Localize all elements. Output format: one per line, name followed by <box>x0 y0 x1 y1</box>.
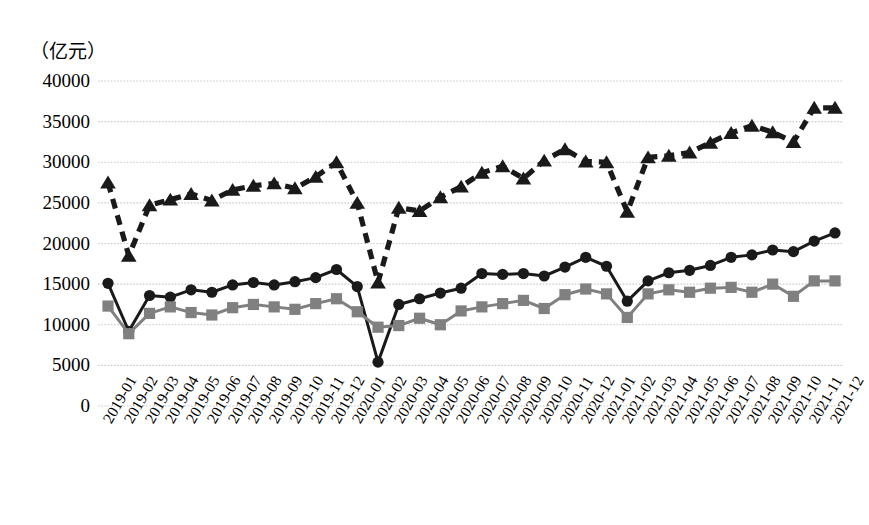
data-point-square <box>227 302 238 313</box>
data-point-square <box>601 288 612 299</box>
data-point-circle <box>829 227 840 238</box>
data-point-circle <box>227 279 238 290</box>
data-point-square <box>393 320 404 331</box>
data-point-square <box>289 304 300 315</box>
data-point-square <box>123 328 134 339</box>
data-point-circle <box>746 249 757 260</box>
series-line <box>108 233 835 362</box>
data-point-circle <box>518 268 529 279</box>
data-point-circle <box>165 292 176 303</box>
data-point-square <box>456 305 467 316</box>
series-circle <box>102 227 840 367</box>
data-point-circle <box>580 252 591 263</box>
plot-svg <box>0 0 869 525</box>
y-tick-label: 5000 <box>10 355 90 374</box>
data-point-triangle <box>370 276 386 289</box>
data-point-square <box>372 322 383 333</box>
data-point-circle <box>788 246 799 257</box>
data-point-triangle <box>100 176 116 189</box>
data-point-square <box>435 319 446 330</box>
data-point-triangle <box>536 154 552 167</box>
data-point-circle <box>310 272 321 283</box>
data-point-circle <box>456 283 467 294</box>
data-point-circle <box>726 252 737 263</box>
data-point-square <box>580 283 591 294</box>
data-point-square <box>414 313 425 324</box>
y-tick-label: 0 <box>10 396 90 415</box>
data-point-circle <box>185 284 196 295</box>
data-point-circle <box>497 269 508 280</box>
data-point-circle <box>559 261 570 272</box>
data-point-circle <box>414 293 425 304</box>
data-point-triangle <box>557 142 573 155</box>
data-point-circle <box>809 235 820 246</box>
data-point-circle <box>144 290 155 301</box>
data-point-circle <box>476 268 487 279</box>
data-point-circle <box>289 276 300 287</box>
y-tick-label: 30000 <box>10 152 90 171</box>
data-point-triangle <box>619 205 635 218</box>
data-point-square <box>310 298 321 309</box>
data-point-triangle <box>806 101 822 114</box>
data-point-square <box>809 275 820 286</box>
data-point-circle <box>705 260 716 271</box>
data-point-square <box>663 284 674 295</box>
data-point-square <box>788 291 799 302</box>
data-point-square <box>518 295 529 306</box>
y-tick-label: 10000 <box>10 315 90 334</box>
data-point-square <box>622 312 633 323</box>
data-point-circle <box>352 281 363 292</box>
data-point-circle <box>435 287 446 298</box>
data-point-square <box>165 301 176 312</box>
data-point-circle <box>622 296 633 307</box>
series-square <box>102 275 840 339</box>
data-point-circle <box>248 277 259 288</box>
data-point-circle <box>684 265 695 276</box>
data-point-circle <box>601 261 612 272</box>
data-point-square <box>248 299 259 310</box>
data-point-square <box>102 300 113 311</box>
data-point-square <box>206 309 217 320</box>
data-point-circle <box>393 299 404 310</box>
data-point-square <box>144 308 155 319</box>
plot-area <box>0 0 869 525</box>
data-point-circle <box>331 264 342 275</box>
y-tick-label: 25000 <box>10 193 90 212</box>
data-point-square <box>726 282 737 293</box>
chart-root: （亿元） 40000350003000025000200001500010000… <box>0 0 869 525</box>
data-point-square <box>497 298 508 309</box>
data-point-square <box>352 306 363 317</box>
data-point-square <box>331 293 342 304</box>
data-point-square <box>269 301 280 312</box>
data-point-circle <box>206 287 217 298</box>
data-point-square <box>539 303 550 314</box>
y-tick-label: 35000 <box>10 112 90 131</box>
data-point-circle <box>642 275 653 286</box>
y-tick-label: 40000 <box>10 71 90 90</box>
data-point-square <box>767 279 778 290</box>
y-tick-label: 20000 <box>10 234 90 253</box>
data-point-circle <box>269 279 280 290</box>
data-point-circle <box>663 267 674 278</box>
data-point-square <box>476 301 487 312</box>
data-point-circle <box>539 270 550 281</box>
data-point-square <box>642 288 653 299</box>
y-tick-label: 15000 <box>10 274 90 293</box>
data-point-square <box>684 287 695 298</box>
data-point-triangle <box>142 198 158 211</box>
data-point-square <box>559 289 570 300</box>
data-point-circle <box>372 357 383 368</box>
data-point-circle <box>767 244 778 255</box>
data-point-square <box>185 307 196 318</box>
data-point-square <box>746 287 757 298</box>
data-point-triangle <box>121 249 137 262</box>
data-point-square <box>705 283 716 294</box>
data-point-circle <box>102 278 113 289</box>
data-point-square <box>829 275 840 286</box>
